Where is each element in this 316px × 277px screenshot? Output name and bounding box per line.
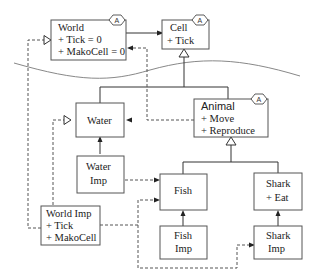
- generalization-triangle-icon: [179, 49, 189, 57]
- abstract-marker-icon: A: [251, 94, 267, 104]
- arrowhead-icon: [127, 46, 133, 51]
- class-name: Shark: [266, 178, 291, 189]
- class-name: Shark: [266, 230, 291, 241]
- svg-text:A: A: [198, 17, 203, 24]
- animal-world-dependency-line: [132, 48, 194, 120]
- class-animal[interactable]: Animal + Move + Reproduce A: [194, 94, 268, 137]
- worldimp-fish-dependency-line: [100, 200, 155, 225]
- class-name-line2: Imp: [90, 175, 107, 186]
- class-name: Fish: [174, 185, 193, 196]
- class-cell[interactable]: Cell + Tick A: [162, 15, 209, 49]
- class-water[interactable]: Water: [76, 103, 124, 137]
- class-member: + Tick: [46, 220, 74, 231]
- class-shark-imp[interactable]: Shark Imp: [254, 226, 302, 259]
- worldimp-water-realization-line: [53, 120, 64, 205]
- class-fish[interactable]: Fish: [160, 174, 207, 210]
- layer-separator-curve: [14, 61, 300, 78]
- class-fish-imp[interactable]: Fish Imp: [160, 226, 207, 259]
- class-shark[interactable]: Shark + Eat: [254, 173, 302, 210]
- class-member: + Tick: [167, 35, 195, 46]
- worldimp-world-realization-line: [28, 40, 44, 228]
- class-water-imp[interactable]: Water Imp: [77, 156, 124, 193]
- svg-text:A: A: [115, 17, 120, 24]
- realization-triangle-icon: [64, 116, 71, 125]
- class-name-line2: Imp: [268, 243, 285, 254]
- class-name: Fish: [174, 230, 193, 241]
- abstract-marker-icon: A: [192, 15, 208, 25]
- class-world-imp[interactable]: World Imp + Tick + MakoCell: [41, 206, 100, 245]
- class-member: + Move: [201, 113, 234, 124]
- arrowhead-icon: [181, 210, 186, 216]
- class-member: + MakoCell = 0: [58, 46, 125, 57]
- class-name: Water: [87, 115, 112, 126]
- class-member: + Tick = 0: [58, 34, 102, 45]
- class-member: + Reproduce: [201, 125, 255, 136]
- realization-triangle-icon: [44, 36, 51, 45]
- class-name: World Imp: [46, 208, 92, 219]
- class-name: Water: [86, 161, 111, 172]
- class-world[interactable]: World + Tick = 0 + MakoCell = 0 A: [51, 15, 126, 60]
- class-name: World: [58, 22, 85, 33]
- class-name: Animal: [201, 100, 235, 112]
- arrowhead-icon: [154, 198, 160, 203]
- class-name: Cell: [170, 22, 188, 33]
- class-name-line2: Imp: [175, 243, 192, 254]
- abstract-marker-icon: A: [109, 15, 125, 25]
- arrowhead-icon: [154, 178, 160, 183]
- svg-text:A: A: [257, 96, 262, 103]
- generalization-triangle-icon: [226, 137, 236, 145]
- class-member: + MakoCell: [46, 232, 97, 243]
- uml-diagram-canvas: World + Tick = 0 + MakoCell = 0 A Cell +…: [0, 0, 316, 277]
- arrowhead-icon: [126, 118, 132, 123]
- class-member: + Eat: [266, 192, 289, 203]
- arrowhead-icon: [276, 210, 281, 216]
